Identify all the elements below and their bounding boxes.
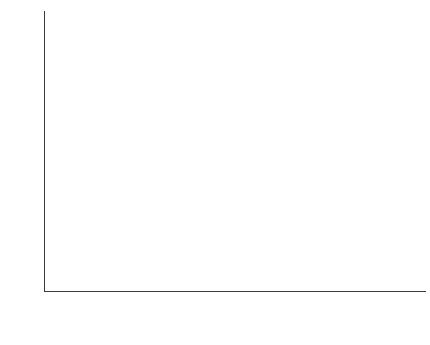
x-axis-line — [44, 291, 426, 292]
plot-area — [45, 11, 426, 291]
stacked-bar-chart — [0, 0, 430, 345]
